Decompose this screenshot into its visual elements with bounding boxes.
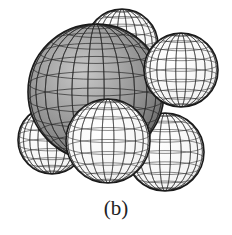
sphere-upper-right [144,33,218,108]
molecule-figure [0,0,232,195]
sphere-bottom-center [66,99,150,184]
figure-caption: (b) [0,196,232,221]
